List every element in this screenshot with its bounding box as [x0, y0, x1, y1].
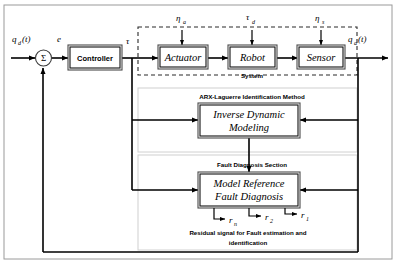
wire-residual-n: [214, 208, 225, 219]
reference-input-symbol: q: [12, 34, 17, 44]
fault-diagnosis-section-title: Fault Diagnosis Section: [217, 161, 287, 168]
residual-2-symbol: r: [265, 212, 269, 222]
reference-input-argument: (t): [22, 34, 31, 44]
actuator-noise-subscript: a: [183, 19, 186, 25]
residual-caption-line2: identification: [229, 239, 268, 246]
block-diagram-canvas: Σ Controller Actuator Robot Sensor Inver…: [0, 0, 396, 264]
wire-residual-2: [249, 208, 261, 216]
error-signal-label: e: [57, 34, 61, 44]
block-diagram-svg: Σ Controller Actuator Robot Sensor Inver…: [0, 0, 396, 264]
identification-section-title: ARX-Laguerre Identification Method: [199, 93, 305, 100]
model-reference-fault-diagnosis-label-line1: Model Reference: [212, 178, 284, 189]
inverse-dynamic-modeling-label-line2: Modeling: [228, 122, 269, 133]
sensor-label: Sensor: [307, 52, 336, 63]
torque-signal-label: τ: [126, 36, 130, 46]
residual-1-subscript: 1: [306, 216, 309, 222]
output-signal-symbol: q: [348, 34, 353, 44]
sensor-noise-symbol: η: [315, 13, 320, 23]
actuator-label: Actuator: [164, 52, 203, 63]
wire-residual-1: [285, 208, 297, 214]
model-reference-fault-diagnosis-label-line2: Fault Diagnosis: [214, 191, 283, 202]
actuator-noise-symbol: η: [176, 13, 181, 23]
controller-label: Controller: [77, 54, 113, 63]
output-signal-argument: (t): [358, 34, 367, 44]
residual-n-subscript: n: [234, 221, 237, 227]
residual-caption-line1: Residual signal for Fault estimation and: [189, 229, 306, 236]
residual-n-symbol: r: [229, 215, 233, 225]
torque-disturbance-subscript: d: [252, 19, 256, 25]
summing-junction-symbol: Σ: [41, 53, 46, 63]
robot-label: Robot: [239, 52, 266, 63]
inverse-dynamic-modeling-label-line1: Inverse Dynamic: [212, 109, 285, 120]
sensor-noise-subscript: s: [322, 19, 325, 25]
output-signal-subscript: a: [354, 40, 357, 46]
residual-2-subscript: 2: [270, 218, 273, 224]
system-section-title: System: [241, 72, 264, 79]
residual-1-symbol: r: [301, 210, 305, 220]
torque-disturbance-symbol: τ: [246, 12, 250, 22]
